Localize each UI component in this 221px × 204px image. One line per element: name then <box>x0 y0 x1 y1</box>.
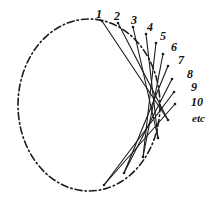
point-group <box>101 20 177 187</box>
circumference-point <box>174 103 177 106</box>
point-label-10: 10 <box>191 96 203 108</box>
point-label-2: 2 <box>114 10 120 22</box>
circumference-point <box>173 91 176 94</box>
point-label-6: 6 <box>171 41 177 53</box>
geometric-figure: 12345678910etc <box>0 0 221 204</box>
point-label-4: 4 <box>147 21 153 33</box>
chord-group <box>102 21 175 185</box>
chord-line <box>104 104 175 185</box>
circumference-point <box>162 53 165 56</box>
chord-line <box>104 92 174 185</box>
point-label-1: 1 <box>96 8 102 20</box>
figure-canvas <box>0 0 221 204</box>
chord-line <box>146 34 158 138</box>
point-label-9: 9 <box>191 81 197 93</box>
point-label-3: 3 <box>131 14 137 26</box>
circumference-point <box>103 184 106 187</box>
point-label-etc: etc <box>192 113 205 124</box>
circumference-point <box>142 156 145 159</box>
point-label-8: 8 <box>187 68 193 80</box>
circumference-point <box>167 65 170 68</box>
circumference-point <box>171 78 174 81</box>
circumference-point <box>167 119 170 122</box>
circumference-point <box>155 42 158 45</box>
circumference-point <box>123 172 126 175</box>
dash-dot-circle <box>18 19 160 191</box>
circumference-point <box>157 137 160 140</box>
point-label-7: 7 <box>178 54 184 66</box>
point-label-5: 5 <box>160 30 166 42</box>
circle-group <box>18 19 160 191</box>
